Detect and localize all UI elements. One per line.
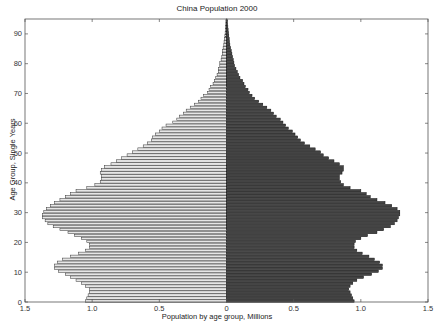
x-axis-label: Population by age group, Millions	[0, 312, 434, 321]
male-bar	[87, 240, 227, 242]
female-bar	[227, 85, 246, 87]
male-bar	[100, 172, 226, 174]
female-bar	[227, 88, 248, 90]
male-bar	[65, 196, 226, 198]
female-bar	[227, 294, 352, 296]
male-bar	[63, 258, 227, 260]
male-bar	[201, 97, 227, 99]
female-bar	[227, 41, 230, 43]
female-bar	[227, 187, 351, 189]
male-bar	[60, 228, 227, 230]
female-bar	[227, 258, 375, 260]
female-bar	[227, 97, 255, 99]
female-bar	[227, 175, 340, 177]
male-bar	[214, 79, 226, 81]
female-bar	[227, 285, 351, 287]
female-bar	[227, 76, 240, 78]
female-bar	[227, 100, 259, 102]
male-bar	[104, 166, 226, 168]
male-bar	[222, 53, 226, 55]
female-bar	[227, 282, 353, 284]
female-bar	[227, 199, 377, 201]
female-bar	[227, 61, 234, 63]
female-bar	[227, 26, 228, 28]
male-bar	[87, 297, 227, 299]
y-tick-label: 90	[14, 29, 22, 38]
male-bar	[81, 282, 226, 284]
female-bar	[227, 163, 340, 165]
female-bar	[227, 133, 296, 135]
male-bar	[166, 124, 226, 126]
male-bar	[89, 288, 226, 290]
male-bar	[155, 133, 226, 135]
male-bar	[221, 58, 226, 60]
male-bar	[71, 276, 227, 278]
male-bar	[42, 213, 226, 215]
y-tick-label: 0	[18, 298, 22, 307]
male-bar	[222, 56, 227, 58]
female-bar	[227, 169, 344, 171]
male-bar	[122, 157, 227, 159]
female-bar	[227, 115, 277, 117]
male-bar	[223, 47, 226, 49]
female-bar	[227, 50, 232, 52]
male-bar	[102, 175, 227, 177]
female-bar	[227, 130, 293, 132]
female-bar	[227, 273, 372, 275]
male-bar	[220, 61, 227, 63]
female-bar	[227, 73, 239, 75]
female-bar	[227, 112, 274, 114]
female-bar	[227, 181, 341, 183]
female-bar	[227, 210, 400, 212]
female-bar	[227, 270, 379, 272]
female-bar	[227, 94, 253, 96]
female-bar	[227, 32, 229, 34]
male-bar	[151, 139, 226, 141]
female-bar	[227, 64, 235, 66]
female-bar	[227, 53, 232, 55]
female-bar	[227, 184, 344, 186]
female-bar	[227, 288, 349, 290]
male-bar	[204, 94, 227, 96]
male-bar	[218, 67, 226, 69]
female-bar	[227, 249, 357, 251]
male-bar	[208, 91, 227, 93]
female-bar	[227, 201, 386, 203]
male-bar	[111, 163, 227, 165]
male-bar	[59, 270, 227, 272]
male-bar	[79, 252, 227, 254]
female-bar	[227, 228, 384, 230]
female-bar	[227, 58, 234, 60]
female-bar	[227, 190, 361, 192]
female-bar	[227, 291, 351, 293]
female-bar	[227, 267, 383, 269]
male-bar	[45, 219, 226, 221]
female-bar	[227, 246, 355, 248]
male-bar	[88, 294, 226, 296]
female-bar	[227, 103, 263, 105]
female-bar	[227, 127, 289, 129]
female-bar	[227, 231, 377, 233]
y-tick-label: 80	[14, 59, 22, 68]
male-bar	[87, 187, 227, 189]
male-bar	[71, 193, 227, 195]
male-bar	[177, 118, 227, 120]
male-bar	[85, 249, 226, 251]
female-bar	[227, 29, 229, 31]
female-bar	[227, 106, 267, 108]
male-bar	[75, 234, 227, 236]
male-bar	[217, 73, 226, 75]
female-bar	[227, 67, 236, 69]
male-bar	[173, 121, 227, 123]
male-bar	[81, 237, 226, 239]
female-bar	[227, 219, 398, 221]
male-bar	[89, 291, 226, 293]
female-bar	[227, 70, 238, 72]
female-bar	[227, 148, 316, 150]
female-bar	[227, 213, 400, 215]
male-bar	[213, 82, 226, 84]
female-bar	[227, 264, 383, 266]
male-bar	[179, 115, 226, 117]
female-bar	[227, 222, 395, 224]
male-bar	[147, 142, 226, 144]
